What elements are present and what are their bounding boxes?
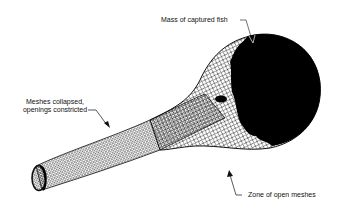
label-mass-of-captured-fish: Mass of captured fish: [161, 16, 228, 24]
arrow-open-meshes: [227, 170, 242, 195]
codend-opening: [32, 166, 46, 191]
label-meshes-collapsed: Meshes collapsed, openings constricted: [20, 98, 90, 114]
label-meshes-collapsed-line1: Meshes collapsed,: [20, 98, 90, 106]
label-meshes-collapsed-line2: openings constricted: [20, 106, 90, 114]
arrow-meshes-collapsed: [88, 110, 110, 128]
label-zone-of-open-meshes: Zone of open meshes: [248, 191, 316, 199]
